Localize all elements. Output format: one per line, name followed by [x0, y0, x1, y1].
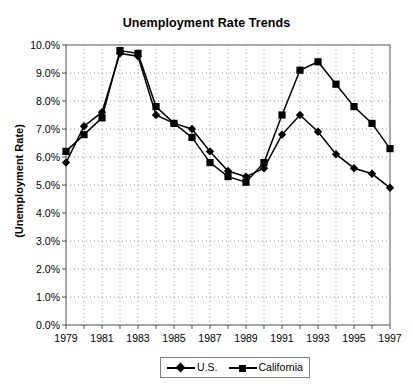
data-point-square — [80, 131, 87, 138]
legend-diamond-marker-icon — [167, 362, 195, 373]
data-point-diamond — [152, 111, 160, 119]
legend-item-california: California — [229, 362, 303, 373]
data-point-square — [224, 173, 231, 180]
data-point-diamond — [62, 158, 70, 166]
data-point-square — [134, 50, 141, 57]
data-point-square — [368, 120, 375, 127]
data-point-square — [350, 103, 357, 110]
legend-label-california: California — [259, 362, 303, 373]
legend-item-us: U.S. — [167, 362, 217, 373]
data-point-square — [332, 81, 339, 88]
chart-legend: U.S. California — [160, 357, 310, 378]
data-point-square — [314, 58, 321, 65]
data-point-square — [152, 103, 159, 110]
unemployment-rate-chart: Unemployment Rate Trends (Unemployment R… — [0, 0, 413, 389]
legend-square-marker-icon — [229, 362, 257, 373]
data-point-square — [296, 67, 303, 74]
data-point-square — [116, 47, 123, 54]
legend-label-us: U.S. — [197, 362, 217, 373]
data-point-square — [188, 134, 195, 141]
data-point-square — [278, 111, 285, 118]
plot-area — [0, 0, 413, 389]
data-point-square — [170, 120, 177, 127]
data-point-square — [260, 159, 267, 166]
data-point-square — [98, 114, 105, 121]
data-point-square — [242, 179, 249, 186]
data-point-square — [206, 159, 213, 166]
series-line-california — [66, 51, 390, 183]
data-point-square — [62, 148, 69, 155]
data-point-square — [386, 145, 393, 152]
